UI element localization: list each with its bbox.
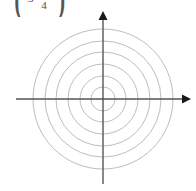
polar-graph-figure: ( 3 π 4 ) [0, 0, 196, 191]
x-axis-arrow-icon [182, 95, 191, 104]
y-axis-arrow-icon [99, 11, 108, 20]
polar-grid-svg [0, 0, 196, 191]
axes-group [16, 11, 191, 184]
